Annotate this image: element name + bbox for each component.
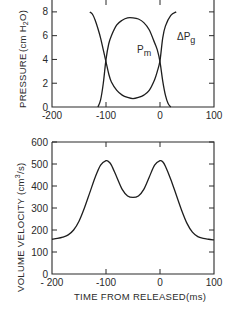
y-tick-label: 600 (31, 137, 48, 148)
y-tick-label: 8 (42, 6, 48, 17)
volume-velocity-axes (52, 142, 214, 274)
x-tick-label: 0 (157, 110, 163, 121)
x-tick-label: 100 (206, 277, 223, 288)
volume-velocity-xlabel: TIME FROM RELEASED(ms) (74, 291, 206, 302)
y-tick-label: 6 (42, 30, 48, 41)
y-tick-label: 400 (31, 181, 48, 192)
pressure-curves (90, 12, 176, 107)
x-tick-label: - 200 (41, 277, 64, 288)
series-label-pm: Pm (137, 44, 151, 58)
volume-velocity-chart: 0100200300400500600- 200-1000100 VOLUME … (14, 137, 223, 303)
y-tick-label: 2 (42, 78, 48, 89)
x-tick-label: 100 (206, 110, 223, 121)
volume-velocity-ylabel-unit: (cm3/s) (14, 163, 26, 195)
x-tick-label: -100 (96, 110, 116, 121)
series-label-dpg: ΔPg (177, 31, 195, 45)
volume-velocity-ticks: 0100200300400500600- 200-1000100 (31, 137, 222, 289)
volume-velocity-ylabel: VOLUME VELOCITY (15, 197, 26, 292)
x-tick-label: -100 (96, 277, 116, 288)
volume-velocity-curves (52, 161, 214, 240)
pressure-axes (52, 0, 214, 107)
pressure-ylabel-unit: (cm H2O) (17, 10, 29, 52)
y-tick-label: 4 (42, 54, 48, 65)
y-tick-label: 500 (31, 159, 48, 170)
y-tick-label: 200 (31, 225, 48, 236)
x-tick-label: -200 (42, 110, 62, 121)
pressure-chart: 02468-200-1000100 PRESSURE (cm H2O) Pm Δ… (17, 0, 223, 121)
series-line-volume-velocity (52, 161, 214, 240)
y-tick-label: 100 (31, 247, 48, 258)
pressure-ylabel: PRESSURE (17, 53, 28, 108)
y-tick-label: 300 (31, 203, 48, 214)
figure: 02468-200-1000100 PRESSURE (cm H2O) Pm Δ… (0, 0, 234, 316)
x-tick-label: 0 (157, 277, 163, 288)
